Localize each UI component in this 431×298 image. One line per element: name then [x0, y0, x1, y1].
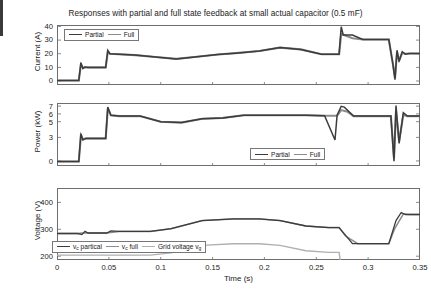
axis-label-time: Time (s)	[57, 274, 420, 283]
ytick-voltage-400: 400	[29, 198, 53, 207]
legend-label-partial: Partial	[85, 31, 104, 38]
legend-item-partial[interactable]: Partial	[69, 31, 104, 38]
series-power-partial	[57, 106, 420, 162]
ytick-current-10: 10	[35, 63, 53, 72]
legend-swatch-full-icon	[108, 34, 121, 35]
xtick-03: 0.3	[354, 263, 382, 272]
panel-voltage: Voltage (V) 400 300 200 vc partical vc f…	[57, 188, 420, 260]
ytick-power-5: 5	[37, 118, 53, 127]
xtick-015: 0.15	[199, 263, 227, 272]
series-current-full	[57, 34, 420, 80]
legend-label-grid-voltage-text: Grid voltage v	[158, 243, 199, 250]
figure-canvas: Responses with partial and full state fe…	[0, 0, 431, 298]
figure-title: Responses with partial and full state fe…	[0, 9, 431, 18]
page-edge-marker	[0, 0, 3, 36]
ytick-current-30: 30	[35, 35, 53, 44]
legend-swatch-full-icon	[294, 154, 307, 155]
xtick-01: 0.1	[147, 263, 175, 272]
ytick-power-0: 0	[37, 157, 53, 166]
legend-label-vc-partial: vc partical	[73, 243, 102, 251]
ytick-voltage-300: 300	[29, 225, 53, 234]
legend-item-full[interactable]: Full	[294, 151, 321, 158]
legend-swatch-vc-full-icon	[106, 246, 119, 247]
legend-label-grid-voltage: Grid voltage vg	[158, 243, 201, 251]
panel-power: Power (kW) 7 6 5 3 0 Partial Full	[57, 103, 420, 166]
ytick-voltage-200: 200	[29, 252, 53, 261]
plot-power	[57, 103, 420, 166]
legend-item-full[interactable]: Full	[108, 31, 135, 38]
xtick-0: 0	[43, 263, 71, 272]
ytick-power-3: 3	[37, 133, 53, 142]
xtick-marks-voltage	[57, 257, 420, 260]
xtick-005: 0.05	[95, 263, 123, 272]
xtick-035: 0.35	[406, 263, 431, 272]
legend-swatch-partial-icon	[69, 34, 82, 35]
legend-power[interactable]: Partial Full	[250, 148, 325, 160]
xtick-marks-power	[57, 163, 420, 166]
legend-label-partial: Partial	[271, 151, 290, 158]
legend-label-full: Full	[124, 31, 135, 38]
ytick-current-20: 20	[35, 49, 53, 58]
legend-swatch-partial-icon	[255, 154, 268, 155]
legend-label-vc-partial-rest: partical	[79, 243, 102, 250]
legend-current[interactable]: Partial Full	[64, 29, 139, 41]
legend-item-vc-partial[interactable]: vc partical	[57, 243, 102, 251]
legend-label-vc-full-rest: full	[128, 243, 138, 250]
series-voltage-vc-partial	[57, 213, 420, 244]
legend-voltage[interactable]: vc partical vc full Grid voltage vg	[52, 241, 206, 253]
legend-label-full: Full	[310, 151, 321, 158]
legend-label-grid-voltage-sub: g	[199, 246, 202, 251]
legend-swatch-grid-voltage-icon	[142, 246, 155, 247]
ytick-current-40: 40	[35, 22, 53, 31]
xtick-marks-current	[57, 82, 420, 85]
legend-item-vc-full[interactable]: vc full	[106, 243, 138, 251]
ytick-current-0: 0	[35, 76, 53, 85]
panel-current: Current (A) 40 30 20 10 0 Partial Full	[57, 25, 420, 85]
xtick-02: 0.2	[250, 263, 278, 272]
legend-label-vc-full: vc full	[122, 243, 138, 251]
legend-item-partial[interactable]: Partial	[255, 151, 290, 158]
xtick-025: 0.25	[302, 263, 330, 272]
legend-swatch-vc-partial-icon	[57, 246, 70, 247]
legend-item-grid-voltage[interactable]: Grid voltage vg	[142, 243, 201, 251]
